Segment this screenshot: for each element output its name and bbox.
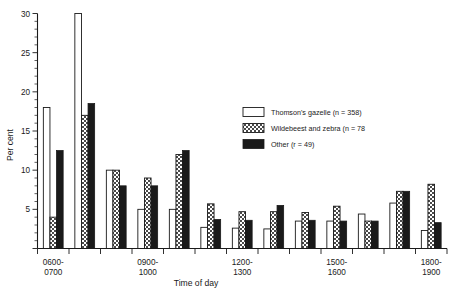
bar-wildebeest-zebra bbox=[270, 212, 277, 249]
bar-other bbox=[403, 191, 410, 248]
plot-area bbox=[43, 14, 441, 249]
y-axis: 51015202530 bbox=[21, 10, 38, 249]
y-tick-label: 10 bbox=[21, 166, 31, 175]
y-tick-label: 30 bbox=[21, 10, 31, 19]
bar-other bbox=[435, 223, 442, 249]
bar-thomsons-gazelle bbox=[421, 230, 428, 248]
bar-group bbox=[358, 214, 378, 248]
x-tick-label: 1500- bbox=[326, 258, 347, 267]
bar-other bbox=[246, 220, 253, 248]
bar-wildebeest-zebra bbox=[50, 217, 57, 248]
bar-other bbox=[57, 151, 64, 249]
bar-chart: 51015202530 0600-07000900-10001200-13001… bbox=[0, 0, 454, 294]
bar-group bbox=[201, 204, 221, 249]
y-tick-label: 25 bbox=[21, 49, 31, 58]
bar-thomsons-gazelle bbox=[75, 14, 82, 249]
bar-wildebeest-zebra bbox=[207, 204, 214, 249]
bar-other bbox=[88, 104, 95, 249]
bar-thomsons-gazelle bbox=[201, 227, 208, 248]
legend-label: Thomson's gazelle (n = 358) bbox=[271, 108, 362, 117]
bar-group bbox=[327, 206, 347, 248]
bar-group bbox=[43, 108, 63, 249]
bar-other bbox=[214, 220, 221, 249]
bar-wildebeest-zebra bbox=[81, 115, 88, 248]
x-tick-label: 1800- bbox=[421, 258, 442, 267]
chart-legend: Thomson's gazelle (n = 358)Wildebeest an… bbox=[243, 108, 365, 150]
legend-swatch bbox=[243, 124, 264, 133]
x-tick-label: 0900- bbox=[137, 258, 158, 267]
x-tick-label: 1200- bbox=[232, 258, 253, 267]
bar-group bbox=[169, 151, 189, 249]
legend-swatch bbox=[243, 108, 264, 117]
bar-wildebeest-zebra bbox=[365, 221, 372, 248]
bar-wildebeest-zebra bbox=[428, 184, 435, 248]
bar-group bbox=[138, 178, 158, 249]
bar-thomsons-gazelle bbox=[295, 221, 302, 248]
bar-wildebeest-zebra bbox=[144, 178, 151, 249]
bar-wildebeest-zebra bbox=[396, 191, 403, 248]
bar-other bbox=[372, 221, 379, 248]
bar-wildebeest-zebra bbox=[113, 170, 120, 248]
bar-group bbox=[232, 212, 252, 249]
x-tick-label: 1300 bbox=[233, 268, 252, 277]
bar-other bbox=[340, 221, 347, 248]
x-tick-label: 1900 bbox=[422, 268, 441, 277]
bar-wildebeest-zebra bbox=[176, 155, 183, 249]
bar-thomsons-gazelle bbox=[358, 214, 365, 248]
bar-thomsons-gazelle bbox=[264, 229, 271, 249]
bar-thomsons-gazelle bbox=[43, 108, 50, 249]
y-axis-title: Per cent bbox=[5, 128, 15, 161]
bar-wildebeest-zebra bbox=[302, 212, 309, 248]
y-tick-label: 20 bbox=[21, 88, 31, 97]
bar-group bbox=[75, 14, 95, 249]
bar-thomsons-gazelle bbox=[106, 170, 113, 248]
bar-wildebeest-zebra bbox=[239, 212, 246, 249]
y-tick-label: 15 bbox=[21, 127, 31, 136]
bar-other bbox=[151, 186, 158, 249]
bar-other bbox=[120, 186, 127, 249]
bar-thomsons-gazelle bbox=[232, 228, 239, 248]
bar-other bbox=[183, 151, 190, 249]
bar-wildebeest-zebra bbox=[333, 206, 340, 248]
bar-thomsons-gazelle bbox=[138, 209, 145, 248]
bar-group bbox=[106, 170, 126, 248]
bar-group bbox=[421, 184, 441, 248]
x-axis: 0600-07000900-10001200-13001500-16001800… bbox=[38, 249, 448, 278]
chart-figure: 51015202530 0600-07000900-10001200-13001… bbox=[0, 0, 454, 294]
x-axis-title: Time of day bbox=[174, 278, 219, 288]
bar-group bbox=[295, 212, 315, 248]
bar-other bbox=[309, 220, 316, 248]
bar-other bbox=[277, 205, 284, 248]
x-tick-label: 0600- bbox=[43, 258, 64, 267]
legend-label: Wildebeest and zebra (n = 78 bbox=[271, 124, 365, 133]
bar-thomsons-gazelle bbox=[169, 209, 176, 248]
bar-group bbox=[390, 191, 410, 248]
legend-label: Other (r = 49) bbox=[271, 140, 314, 149]
x-tick-label: 1000 bbox=[139, 268, 158, 277]
bar-group bbox=[264, 205, 284, 248]
bar-thomsons-gazelle bbox=[327, 221, 334, 248]
y-tick-label: 5 bbox=[25, 205, 30, 214]
x-tick-label: 0700 bbox=[44, 268, 63, 277]
legend-swatch bbox=[243, 140, 264, 149]
bar-thomsons-gazelle bbox=[390, 203, 397, 248]
x-tick-label: 1600 bbox=[328, 268, 347, 277]
